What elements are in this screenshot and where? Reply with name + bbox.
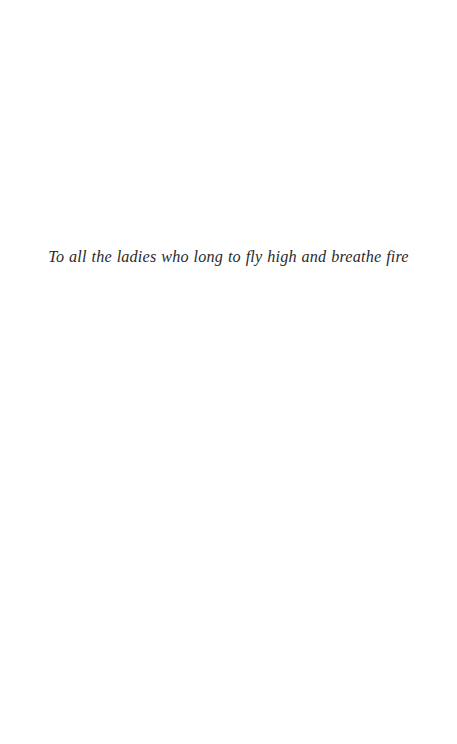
book-page: To all the ladies who long to fly high a… <box>0 0 457 744</box>
dedication-block: To all the ladies who long to fly high a… <box>0 231 457 283</box>
dedication-text: To all the ladies who long to fly high a… <box>48 247 408 267</box>
